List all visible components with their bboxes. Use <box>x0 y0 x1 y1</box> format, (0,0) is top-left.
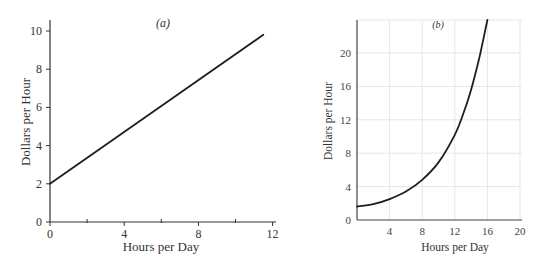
chart-a-series <box>50 35 263 184</box>
x-tick-label: 8 <box>419 225 425 237</box>
y-tick-label: 8 <box>36 62 42 76</box>
chart-b-x-axis-label: Hours per Day <box>421 241 489 254</box>
chart-a-y-axis-label: Dollars per Hour <box>18 77 33 166</box>
chart-canvas: 024681004812 (a) Hours per Day Dollars p… <box>0 0 548 268</box>
y-tick-label: 0 <box>36 215 42 229</box>
y-tick-label: 20 <box>340 47 352 59</box>
y-tick-label: 10 <box>30 24 42 38</box>
chart-a-ticks: 024681004812 <box>30 24 279 241</box>
data-line <box>50 35 263 184</box>
x-tick-label: 0 <box>47 227 53 241</box>
y-tick-label: 16 <box>340 80 352 92</box>
chart-b-panel-label: (b) <box>432 19 444 31</box>
y-tick-label: 4 <box>346 181 352 193</box>
y-tick-label: 6 <box>36 100 42 114</box>
y-tick-label: 2 <box>36 177 42 191</box>
x-tick-label: 12 <box>449 225 460 237</box>
chart-b-y-axis-label: Dollars per Hour <box>322 82 335 160</box>
chart-a-panel-label: (a) <box>156 16 170 30</box>
x-tick-label: 12 <box>267 227 279 241</box>
chart-b-grid <box>357 20 522 220</box>
y-tick-label: 8 <box>346 147 352 159</box>
chart-a: 024681004812 (a) Hours per Day Dollars p… <box>18 16 279 254</box>
x-tick-label: 16 <box>482 225 494 237</box>
chart-b: 04812162048121620 (b) Hours per Day Doll… <box>322 19 526 254</box>
y-tick-label: 4 <box>36 139 42 153</box>
y-tick-label: 12 <box>340 114 351 126</box>
chart-a-x-axis-label: Hours per Day <box>123 239 200 254</box>
x-tick-label: 20 <box>515 225 527 237</box>
chart-b-ticks: 04812162048121620 <box>340 47 526 237</box>
x-tick-label: 4 <box>387 225 393 237</box>
y-tick-label: 0 <box>346 214 352 226</box>
